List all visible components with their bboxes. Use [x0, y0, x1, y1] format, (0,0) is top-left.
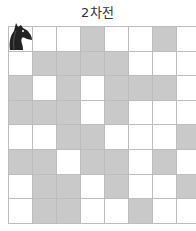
board-cell-r2-c7[interactable] — [177, 76, 196, 101]
board-cell-r1-c1[interactable] — [33, 52, 57, 77]
board-cell-r2-c6[interactable] — [153, 76, 177, 101]
board-cell-r3-c6[interactable] — [153, 101, 177, 126]
board-cell-r6-c6[interactable] — [153, 175, 177, 200]
board-cell-r7-c5[interactable] — [129, 199, 153, 224]
board-cell-r0-c1[interactable] — [33, 27, 57, 52]
board-cell-r2-c1[interactable] — [33, 76, 57, 101]
board-cell-r6-c3[interactable] — [81, 175, 105, 200]
board-cell-r2-c3[interactable] — [81, 76, 105, 101]
board-cell-r7-c0[interactable] — [9, 199, 33, 224]
board-cell-r6-c2[interactable] — [57, 175, 81, 200]
board-cell-r5-c7[interactable] — [177, 150, 196, 175]
board-cell-r5-c2[interactable] — [57, 150, 81, 175]
board-cell-r7-c6[interactable] — [153, 199, 177, 224]
board-cell-r2-c0[interactable] — [9, 76, 33, 101]
board-cell-r6-c7[interactable] — [177, 175, 196, 200]
board-cell-r7-c4[interactable] — [105, 199, 129, 224]
board-cell-r1-c7[interactable] — [177, 52, 196, 77]
board-cell-r2-c5[interactable] — [129, 76, 153, 101]
board-cell-r1-c0[interactable] — [9, 52, 33, 77]
board-cell-r6-c4[interactable] — [105, 175, 129, 200]
board-cell-r4-c0[interactable] — [9, 125, 33, 150]
board-cell-r3-c0[interactable] — [9, 101, 33, 126]
board-cell-r5-c4[interactable] — [105, 150, 129, 175]
board-cell-r4-c7[interactable] — [177, 125, 196, 150]
board-cell-r1-c4[interactable] — [105, 52, 129, 77]
board-cell-r4-c5[interactable] — [129, 125, 153, 150]
board-cell-r0-c2[interactable] — [57, 27, 81, 52]
board-cell-r3-c3[interactable] — [81, 101, 105, 126]
board-cell-r0-c4[interactable] — [105, 27, 129, 52]
board-cell-r4-c1[interactable] — [33, 125, 57, 150]
board-cell-r5-c6[interactable] — [153, 150, 177, 175]
board-cell-r4-c3[interactable] — [81, 125, 105, 150]
board-cell-r0-c0[interactable] — [9, 27, 33, 52]
board-cell-r6-c5[interactable] — [129, 175, 153, 200]
board-cell-r5-c5[interactable] — [129, 150, 153, 175]
board-cell-r3-c2[interactable] — [57, 101, 81, 126]
board-cell-r3-c7[interactable] — [177, 101, 196, 126]
game-board — [8, 26, 196, 224]
board-cell-r5-c1[interactable] — [33, 150, 57, 175]
board-cell-r1-c2[interactable] — [57, 52, 81, 77]
board-cell-r7-c7[interactable] — [177, 199, 196, 224]
board-cell-r5-c3[interactable] — [81, 150, 105, 175]
board-cell-r2-c2[interactable] — [57, 76, 81, 101]
board-cell-r0-c5[interactable] — [129, 27, 153, 52]
board-cell-r7-c1[interactable] — [33, 199, 57, 224]
page-title: 2차전 — [0, 2, 196, 21]
board-cell-r6-c1[interactable] — [33, 175, 57, 200]
board-cell-r4-c4[interactable] — [105, 125, 129, 150]
board-cell-r0-c6[interactable] — [153, 27, 177, 52]
board-cell-r7-c2[interactable] — [57, 199, 81, 224]
knight-icon[interactable] — [8, 21, 34, 51]
board-cell-r2-c4[interactable] — [105, 76, 129, 101]
board-cell-r1-c6[interactable] — [153, 52, 177, 77]
board-cell-r3-c4[interactable] — [105, 101, 129, 126]
board-cell-r4-c2[interactable] — [57, 125, 81, 150]
board-cell-r1-c5[interactable] — [129, 52, 153, 77]
board-cell-r3-c1[interactable] — [33, 101, 57, 126]
board-cell-r7-c3[interactable] — [81, 199, 105, 224]
board-cell-r3-c5[interactable] — [129, 101, 153, 126]
board-cell-r6-c0[interactable] — [9, 175, 33, 200]
board-cell-r1-c3[interactable] — [81, 52, 105, 77]
board-cell-r0-c3[interactable] — [81, 27, 105, 52]
board-cell-r0-c7[interactable] — [177, 27, 196, 52]
board-cell-r5-c0[interactable] — [9, 150, 33, 175]
board-cell-r4-c6[interactable] — [153, 125, 177, 150]
